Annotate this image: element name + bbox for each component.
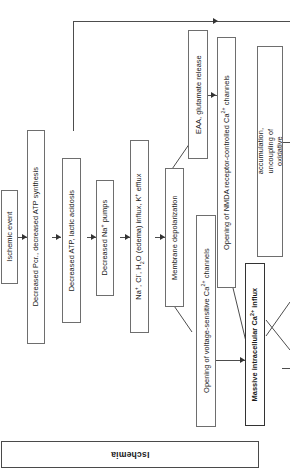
- node-label: Na+, Cl-, H2O (edema) influx, K+ efflux: [135, 173, 144, 299]
- node-label: Decreased Pcr., decreased ATP synthesis: [31, 167, 40, 306]
- feedback-connector-vertical: [73, 21, 74, 131]
- node-label: Decreased ATP, lactic acidosis: [67, 190, 76, 291]
- feedback-connector-horizontal: [73, 21, 290, 22]
- node-decreased-atp[interactable]: Decreased ATP, lactic acidosis: [62, 158, 81, 323]
- node-nmda-ca-channels[interactable]: Opening of NMDA receptor-controlled Ca2+…: [217, 37, 236, 288]
- connector-mitochondrial-outgoing: [282, 142, 290, 143]
- node-decreased-na-pumps[interactable]: Decreased Na+ pumps: [96, 180, 114, 296]
- node-label: Opening of NMDA receptor-controlled Ca2+…: [222, 75, 231, 250]
- node-ischemic-event[interactable]: Ischemic event: [1, 190, 18, 284]
- node-label: Ischemic event: [5, 212, 14, 262]
- node-membrane-depolarization[interactable]: Membrane depolarization: [165, 168, 184, 307]
- node-label: Massive intracellular Ca2+ influx: [250, 288, 259, 402]
- node-label: Decreased Na+ pumps: [100, 200, 109, 276]
- node-massive-intracellular-ca-influx[interactable]: Massive intracellular Ca2+ influx: [245, 263, 265, 426]
- arrowhead-eaa-to-nmda: [211, 92, 216, 98]
- node-ion-fluxes[interactable]: Na+, Cl-, H2O (edema) influx, K+ efflux: [130, 140, 149, 333]
- ischemia-banner: Ischemia: [1, 441, 259, 468]
- node-voltage-sensitive-ca-channels[interactable]: Opening of voltage-sensitive Ca2+ channe…: [196, 215, 216, 427]
- node-label: EAA, glutamate release: [193, 55, 202, 134]
- figure-canvas: Ischemic event Decreased Pcr., decreased…: [0, 0, 290, 474]
- connector-influx-outgoing: [282, 368, 290, 369]
- feedback-arrowhead: [213, 18, 218, 24]
- node-decreased-pcr[interactable]: Decreased Pcr., decreased ATP synthesis: [27, 130, 45, 344]
- node-label: Opening of voltage-sensitive Ca2+ channe…: [201, 249, 210, 394]
- ischemia-banner-label: Ischemia: [111, 450, 149, 460]
- node-label: Mitochondrial accumulation, uncoupling o…: [257, 125, 283, 178]
- node-eaa-glutamate-release[interactable]: EAA, glutamate release: [188, 30, 208, 159]
- node-mitochondrial-accumulation[interactable]: Mitochondrial accumulation, uncoupling o…: [257, 46, 283, 257]
- connector-influx-branch-lower: [266, 320, 290, 354]
- node-label: Membrane depolarization: [170, 195, 179, 280]
- arrowhead-pcr-to-atp: [56, 234, 61, 240]
